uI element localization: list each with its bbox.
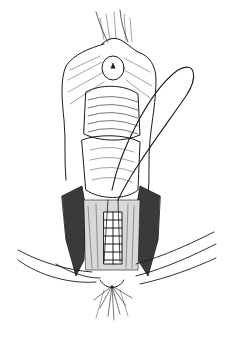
illustration-svg — [0, 0, 226, 343]
retracted-flaps — [62, 44, 156, 196]
surgical-illustration — [0, 0, 226, 343]
perineal-tissue — [94, 280, 132, 320]
central-mucosa — [82, 86, 140, 197]
upper-tissue-fold — [96, 10, 138, 52]
